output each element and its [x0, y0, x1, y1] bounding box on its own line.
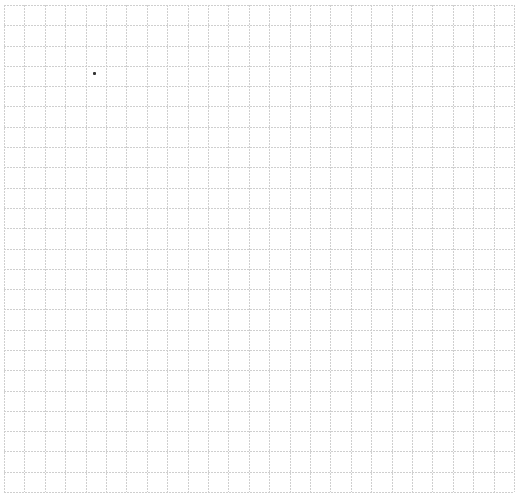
grid-lines — [4, 5, 515, 493]
grid-paper[interactable] — [4, 5, 514, 492]
grid-canvas[interactable] — [0, 0, 521, 497]
dot-marker — [93, 72, 96, 75]
